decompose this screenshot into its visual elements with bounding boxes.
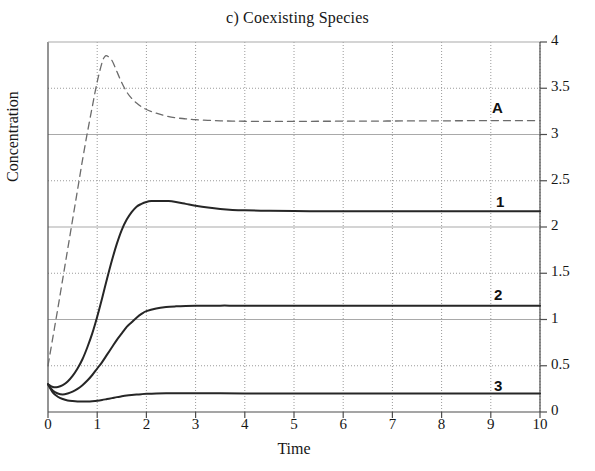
y-tick-label: 4 xyxy=(551,32,559,49)
x-tick-label: 9 xyxy=(471,416,511,433)
x-tick-label: 5 xyxy=(274,416,314,433)
x-tick-label: 0 xyxy=(28,416,68,433)
x-tick-label: 1 xyxy=(77,416,117,433)
series-label-a: A xyxy=(492,99,503,116)
x-tick-label: 3 xyxy=(176,416,216,433)
ticks-layer xyxy=(48,42,547,418)
x-tick-label: 2 xyxy=(126,416,166,433)
x-tick-label: 8 xyxy=(422,416,462,433)
series-label-2: 2 xyxy=(494,286,502,303)
y-tick-label: 1 xyxy=(551,310,559,327)
y-tick-label: 2.5 xyxy=(551,171,570,188)
x-tick-label: 10 xyxy=(520,416,560,433)
x-tick-label: 4 xyxy=(225,416,265,433)
y-tick-label: 3.5 xyxy=(551,78,570,95)
chart-figure: c) Coexisting Species Concentration Time… xyxy=(0,0,595,471)
y-tick-label: 0.5 xyxy=(551,356,570,373)
y-tick-label: 1.5 xyxy=(551,263,570,280)
grid-layer xyxy=(48,42,540,412)
x-tick-label: 7 xyxy=(372,416,412,433)
plot-canvas xyxy=(0,0,595,471)
y-tick-label: 2 xyxy=(551,217,559,234)
series-curve-3 xyxy=(48,384,540,401)
series-label-1: 1 xyxy=(496,193,504,210)
y-tick-label: 3 xyxy=(551,125,559,142)
x-tick-label: 6 xyxy=(323,416,363,433)
series-label-3: 3 xyxy=(494,377,502,394)
